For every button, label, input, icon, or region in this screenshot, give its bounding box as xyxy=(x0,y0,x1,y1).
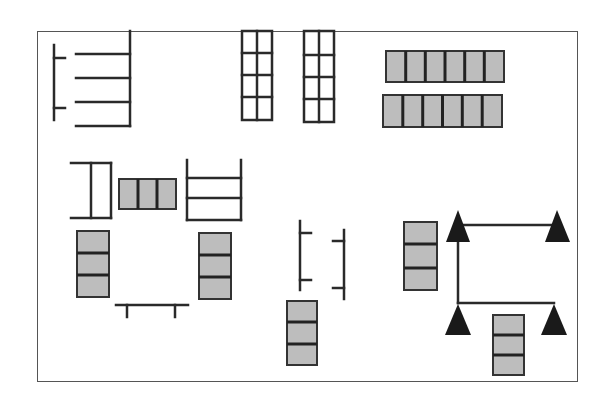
bracket-mid-left xyxy=(71,163,111,218)
block-row-top-2 xyxy=(383,95,502,127)
triangle-icon xyxy=(445,304,471,335)
rack-mid xyxy=(187,160,241,220)
block-row-mid xyxy=(119,179,176,209)
block-col-bottom-mid xyxy=(287,301,317,365)
bench-bottom xyxy=(116,305,188,317)
floor-plan-diagram xyxy=(0,0,596,412)
block-col-left xyxy=(77,231,109,297)
tick-rail-2 xyxy=(333,230,344,299)
rack-top-left xyxy=(54,31,130,126)
grid-top-1 xyxy=(242,31,272,120)
grid-top-2 xyxy=(304,31,334,122)
block-row-top-1 xyxy=(386,51,504,82)
tick-rail-1 xyxy=(300,221,311,290)
block-col-bottom-right xyxy=(493,315,524,375)
triangle-icon xyxy=(541,304,567,335)
block-col-mid-left xyxy=(199,233,231,299)
block-col-right xyxy=(404,222,437,290)
